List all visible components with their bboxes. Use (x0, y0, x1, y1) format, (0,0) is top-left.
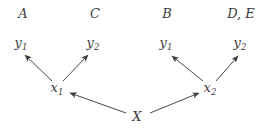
node-x1: x1 (51, 80, 64, 97)
top-label-de: D, E (226, 6, 255, 21)
tree-diagram: A C B D, E y1 y2 y1 y2 x1 x2 X (0, 0, 266, 131)
edge-x-to-x1 (70, 93, 126, 113)
edge-x1-to-y1 (25, 55, 52, 81)
node-x2: x2 (204, 80, 217, 97)
edge-x1-to-y2 (63, 55, 88, 81)
leaf-node-y1-right-sub: 1 (167, 42, 172, 52)
top-label-c: C (90, 6, 100, 21)
top-label-a: A (17, 6, 27, 21)
tree-diagram-canvas: A C B D, E y1 y2 y1 y2 x1 x2 X (0, 0, 266, 131)
leaf-node-y1-left-sub: 1 (22, 42, 27, 52)
top-label-b: B (161, 6, 172, 21)
edge-x2-to-y1 (172, 56, 203, 81)
root-node-x: X (131, 109, 142, 124)
edge-x-to-x2 (150, 93, 199, 113)
leaf-node-y2-right: y2 (233, 35, 247, 52)
leaf-node-y2-left: y2 (86, 35, 100, 52)
node-x1-sub: 1 (58, 87, 63, 97)
leaf-node-y1-right: y1 (159, 35, 173, 52)
leaf-node-y2-right-sub: 2 (240, 42, 246, 52)
node-x2-sub: 2 (210, 87, 216, 97)
leaf-node-y2-left-sub: 2 (93, 42, 99, 52)
leaf-node-y1-left: y1 (14, 35, 28, 52)
edge-x2-to-y2 (216, 56, 238, 81)
